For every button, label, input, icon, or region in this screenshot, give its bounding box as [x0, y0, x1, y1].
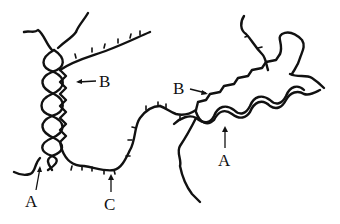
label-c: C — [104, 196, 115, 213]
left-tail-top-b — [58, 13, 88, 48]
right-tail-bottom — [179, 118, 200, 202]
label-b-right: B — [173, 80, 184, 97]
left-tail-bottom-a — [14, 158, 40, 175]
arrowhead-b-right — [201, 90, 208, 95]
right-tail-top-b — [280, 33, 304, 74]
right-top-tick-1 — [245, 36, 248, 37]
upper-branch-ticks — [75, 31, 140, 58]
chain-c — [62, 106, 160, 171]
right-zigzag-strand — [196, 54, 280, 110]
label-a-left: A — [25, 193, 37, 210]
diagram-canvas: A B C B A — [0, 0, 340, 224]
left-tail-top-a — [24, 30, 52, 50]
helix-diagram-svg — [0, 0, 340, 224]
arrowhead-a-right — [222, 126, 228, 132]
label-b-left: B — [99, 73, 110, 90]
arrowhead-b-left — [76, 79, 82, 84]
right-top-tick-2 — [258, 47, 262, 48]
arrowhead-a-left — [37, 166, 42, 172]
right-tail-top-a — [241, 16, 268, 70]
right-helix-strand-2 — [196, 90, 320, 123]
upper-branch-chain — [60, 32, 150, 70]
label-a-right: A — [218, 152, 230, 169]
right-structure — [174, 16, 324, 202]
left-structure — [14, 13, 160, 175]
arrowhead-c — [108, 174, 114, 180]
